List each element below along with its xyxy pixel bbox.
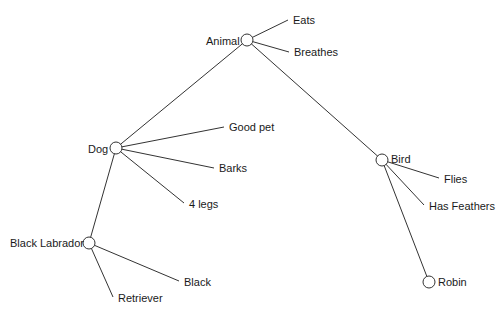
property-label-4-legs: 4 legs xyxy=(189,198,218,210)
property-label-retriever: Retriever xyxy=(118,292,163,304)
node-dog-circle xyxy=(110,142,122,154)
property-label-breathes: Breathes xyxy=(294,46,338,58)
node-label-black-labrador: Black Labrador xyxy=(10,237,84,249)
prop-link-eats xyxy=(247,20,288,40)
node-black-labrador-circle xyxy=(83,237,95,249)
property-label-has-feathers: Has Feathers xyxy=(429,200,495,212)
property-label-good-pet: Good pet xyxy=(229,121,274,133)
property-label-eats: Eats xyxy=(293,14,315,26)
node-bird-circle xyxy=(376,154,388,166)
node-label-dog: Dog xyxy=(88,143,108,155)
node-label-robin: Robin xyxy=(438,276,467,288)
link-animal-dog xyxy=(116,40,247,148)
prop-link-black xyxy=(89,243,179,281)
semantic-network-diagram xyxy=(0,0,500,314)
prop-link-4-legs xyxy=(116,148,184,203)
node-label-bird: Bird xyxy=(391,153,411,165)
property-label-black: Black xyxy=(184,276,211,288)
link-animal-bird xyxy=(247,40,382,160)
prop-link-good-pet xyxy=(116,127,224,148)
property-label-flies: Flies xyxy=(444,173,467,185)
link-dog-black-labrador xyxy=(89,148,116,243)
node-robin-circle xyxy=(423,276,435,288)
property-label-barks: Barks xyxy=(219,162,247,174)
node-animal-circle xyxy=(241,34,253,46)
node-label-animal: Animal xyxy=(206,35,240,47)
link-bird-robin xyxy=(382,160,429,282)
prop-link-barks xyxy=(116,148,214,168)
